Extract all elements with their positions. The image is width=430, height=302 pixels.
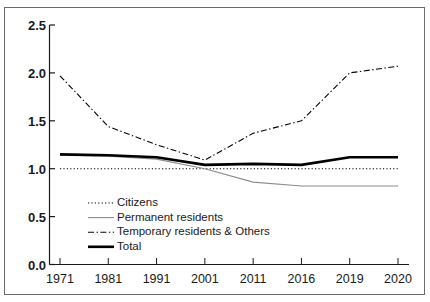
x-tick-label: 1981 <box>94 272 122 286</box>
y-axis-ticks: 0.00.51.01.52.02.5 <box>28 18 55 273</box>
y-tick-label: 2.5 <box>28 18 46 33</box>
y-tick-label: 0.5 <box>28 210 46 225</box>
y-tick-label: 0.0 <box>28 258 46 273</box>
x-tick-label: 2019 <box>336 272 364 286</box>
y-tick-label: 2.0 <box>28 66 46 81</box>
legend-label: Total <box>117 240 141 252</box>
legend-label: Permanent residents <box>117 211 223 223</box>
y-tick-label: 1.0 <box>28 162 46 177</box>
x-tick-label: 2001 <box>191 272 219 286</box>
x-tick-label: 2016 <box>288 272 316 286</box>
data-series-group <box>60 66 398 186</box>
line-chart: 0.00.51.01.52.02.5 197119811991200120112… <box>0 0 430 302</box>
legend-label: Citizens <box>117 196 158 208</box>
series-line-temporary-residents-others <box>60 66 398 160</box>
x-tick-label: 1991 <box>143 272 171 286</box>
chart-legend: CitizensPermanent residentsTemporary res… <box>88 196 270 252</box>
x-tick-label: 2020 <box>384 272 412 286</box>
x-tick-label: 2011 <box>240 272 267 286</box>
series-line-permanent-residents <box>60 155 398 186</box>
x-tick-label: 1971 <box>46 272 74 286</box>
x-axis-ticks: 19711981199120012011201620192020 <box>46 258 412 286</box>
series-line-total <box>60 154 398 165</box>
legend-label: Temporary residents & Others <box>117 225 270 237</box>
y-tick-label: 1.5 <box>28 114 46 129</box>
chart-figure: 0.00.51.01.52.02.5 197119811991200120112… <box>0 0 430 302</box>
